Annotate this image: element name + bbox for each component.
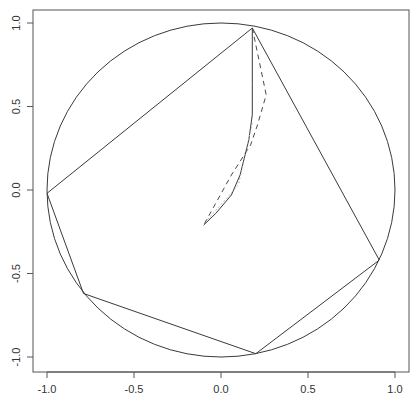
x-axis: -1.0-0.50.00.51.0: [38, 372, 403, 395]
x-tick-label: -0.5: [125, 383, 144, 395]
series-path-dashed: [204, 28, 267, 225]
y-tick-label: -0.5: [10, 264, 22, 283]
plot-frame: [33, 10, 409, 372]
x-tick-label: 0.0: [213, 383, 228, 395]
plot-area: [47, 23, 395, 357]
x-tick-label: 0.5: [300, 383, 315, 395]
y-tick-label: -1.0: [10, 348, 22, 367]
y-axis: -1.0-0.50.00.51.0: [10, 15, 33, 366]
x-tick-label: -1.0: [38, 383, 57, 395]
series-polygon: [47, 28, 379, 354]
x-tick-label: 1.0: [387, 383, 402, 395]
y-tick-label: 1.0: [10, 15, 22, 30]
chart-canvas: -1.0-0.50.00.51.0 -1.0-0.50.00.51.0: [0, 0, 419, 402]
y-tick-label: 0.5: [10, 99, 22, 114]
unit-circle: [47, 23, 395, 357]
plot-border: [33, 10, 409, 372]
y-tick-label: 0.0: [10, 182, 22, 197]
series-path-solid: [204, 28, 253, 225]
